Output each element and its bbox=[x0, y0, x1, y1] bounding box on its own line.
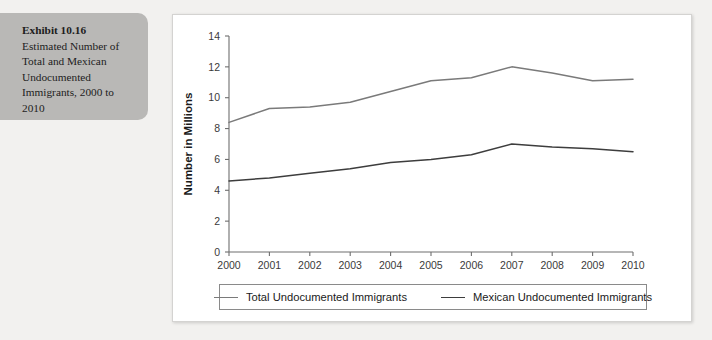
legend-label-mexican: Mexican Undocumented Immigrants bbox=[473, 291, 652, 303]
legend-line-swatch-total bbox=[214, 297, 238, 298]
exhibit-caption-lead: Exhibit 10.16 bbox=[22, 24, 86, 36]
line-chart: 02468101214 2000200120022003200420052006… bbox=[173, 15, 693, 323]
series-group bbox=[229, 67, 633, 181]
exhibit-caption-text: Exhibit 10.16 Estimated Number of Total … bbox=[22, 23, 134, 117]
y-tick-label: 8 bbox=[214, 122, 220, 134]
chart-legend: Total Undocumented Immigrants Mexican Un… bbox=[219, 284, 647, 310]
chart-panel: 02468101214 2000200120022003200420052006… bbox=[172, 14, 692, 322]
x-axis-ticks: 2000200120022003200420052006200720082009… bbox=[217, 252, 645, 271]
x-tick-label: 2004 bbox=[379, 259, 403, 271]
exhibit-caption-body: Estimated Number of Total and Mexican Un… bbox=[22, 40, 119, 114]
x-tick-label: 2003 bbox=[339, 259, 363, 271]
x-tick-label: 2010 bbox=[621, 259, 645, 271]
y-axis-title: Number in Millions bbox=[182, 93, 194, 196]
y-tick-label: 0 bbox=[214, 246, 220, 258]
y-axis-ticks: 02468101214 bbox=[208, 30, 229, 258]
y-tick-label: 6 bbox=[214, 153, 220, 165]
legend-label-total: Total Undocumented Immigrants bbox=[246, 291, 407, 303]
legend-item-mexican[interactable]: Mexican Undocumented Immigrants bbox=[441, 291, 652, 303]
x-tick-label: 2009 bbox=[581, 259, 605, 271]
legend-item-total[interactable]: Total Undocumented Immigrants bbox=[214, 291, 407, 303]
y-tick-label: 10 bbox=[208, 91, 220, 103]
series-line-mexican bbox=[229, 144, 633, 181]
x-tick-label: 2000 bbox=[217, 259, 241, 271]
y-tick-label: 12 bbox=[208, 61, 220, 73]
x-tick-label: 2002 bbox=[298, 259, 322, 271]
x-tick-label: 2008 bbox=[541, 259, 565, 271]
x-tick-label: 2007 bbox=[500, 259, 524, 271]
series-line-total bbox=[229, 67, 633, 123]
y-tick-label: 2 bbox=[214, 215, 220, 227]
y-tick-label: 4 bbox=[214, 184, 220, 196]
y-tick-label: 14 bbox=[208, 30, 220, 42]
x-tick-label: 2001 bbox=[258, 259, 282, 271]
legend-line-swatch-mexican bbox=[441, 297, 465, 298]
exhibit-caption-box: Exhibit 10.16 Estimated Number of Total … bbox=[0, 13, 148, 120]
x-tick-label: 2006 bbox=[460, 259, 484, 271]
x-tick-label: 2005 bbox=[419, 259, 443, 271]
